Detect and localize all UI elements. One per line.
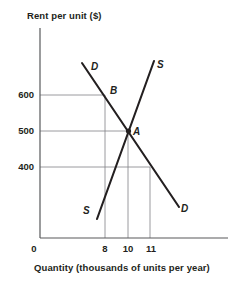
supply-demand-chart: Rent per unit ($) Quantity (thousands of… — [0, 0, 237, 283]
x-tick-label-10: 10 — [118, 243, 138, 254]
y-tick-label-400: 400 — [8, 161, 34, 172]
x-tick-label-8: 8 — [95, 243, 115, 254]
y-axis-title: Rent per unit ($) — [27, 10, 102, 21]
supply-curve-label-bottom: S — [83, 205, 90, 216]
x-tick-label-0: 0 — [24, 243, 44, 254]
y-tick-label-600: 600 — [8, 89, 34, 100]
chart-canvas — [0, 0, 237, 283]
supply-curve — [97, 61, 154, 219]
x-axis-title: Quantity (thousands of units per year) — [34, 262, 210, 273]
demand-curve-label-bottom: D — [181, 203, 188, 214]
point-label-a: A — [133, 126, 140, 137]
y-tick-label-500: 500 — [8, 125, 34, 136]
demand-curve-label-top: D — [91, 61, 98, 72]
demand-curve — [82, 63, 179, 207]
supply-curve-label-top: S — [157, 59, 164, 70]
equilibrium-point-marker — [126, 128, 131, 133]
x-tick-label-11: 11 — [141, 243, 161, 254]
point-label-b: B — [110, 85, 117, 96]
